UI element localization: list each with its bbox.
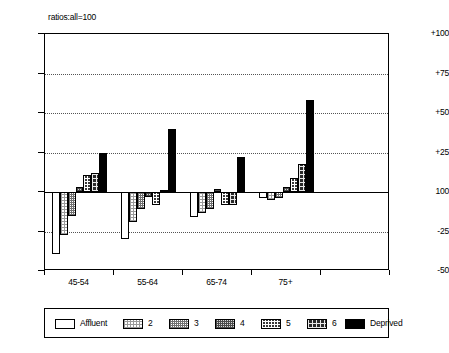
bar-4554-2 xyxy=(60,192,68,235)
legend-swatch-icon xyxy=(307,319,327,329)
x-tick-label-6574: 65-74 xyxy=(187,278,247,287)
bar-75-6 xyxy=(298,164,306,192)
bar-75-4 xyxy=(283,187,291,192)
deprivation-ratio-bar-chart: ratios:all=100 +100+75+50+25100-25-50 45… xyxy=(0,0,449,353)
bar-6574-4 xyxy=(214,189,222,192)
bar-4554-5 xyxy=(83,175,91,192)
bar-5564-3 xyxy=(137,192,145,209)
bar-5564-2 xyxy=(129,192,137,222)
legend-item-2[interactable]: 2 xyxy=(123,317,153,330)
baseline-zero-line xyxy=(45,192,388,193)
bar-4554-deprived xyxy=(99,153,107,193)
legend-label: 3 xyxy=(194,319,199,328)
bar-6574-2 xyxy=(198,192,206,213)
bar-6574-5 xyxy=(221,192,229,205)
legend-item-5[interactable]: 5 xyxy=(261,317,291,330)
bar-4554-3 xyxy=(68,192,76,216)
legend-item-deprived[interactable]: Deprived xyxy=(345,317,402,330)
x-tick-mark xyxy=(389,270,390,275)
bar-4554-6 xyxy=(91,173,99,192)
y-tick-label: +25 xyxy=(415,148,449,157)
chart-title: ratios:all=100 xyxy=(48,13,96,22)
x-tick-label-75: 75+ xyxy=(256,278,316,287)
bar-5564-4 xyxy=(145,192,153,197)
legend-swatch-icon xyxy=(345,319,365,329)
legend-item-affluent[interactable]: Affluent xyxy=(55,317,107,330)
x-tick-mark xyxy=(320,270,321,275)
x-tick-label-4554: 45-54 xyxy=(49,278,109,287)
legend-item-4[interactable]: 4 xyxy=(215,317,245,330)
legend-label: 4 xyxy=(240,319,245,328)
legend-swatch-icon xyxy=(55,319,75,329)
legend-swatch-icon xyxy=(169,319,189,329)
y-tick-label: +75 xyxy=(415,69,449,78)
x-tick-mark xyxy=(113,270,114,275)
legend-label: Deprived xyxy=(370,319,402,328)
bar-5564-5 xyxy=(152,192,160,205)
x-tick-mark xyxy=(44,270,45,275)
bar-4554-4 xyxy=(76,187,84,192)
bar-75-deprived xyxy=(306,100,314,192)
bar-75-2 xyxy=(267,192,275,200)
bar-75-affluent xyxy=(259,192,267,198)
x-tick-mark xyxy=(251,270,252,275)
bar-5564-affluent xyxy=(121,192,129,239)
bar-75-5 xyxy=(290,178,298,192)
gridline xyxy=(45,153,388,154)
legend-item-3[interactable]: 3 xyxy=(169,317,199,330)
bar-5564-6 xyxy=(160,190,168,192)
bar-75-3 xyxy=(275,192,283,198)
y-tick-label: 100 xyxy=(415,187,449,196)
bar-6574-deprived xyxy=(237,157,245,192)
legend-label: Affluent xyxy=(80,319,107,328)
gridline xyxy=(45,74,388,75)
legend-label: 5 xyxy=(286,319,291,328)
chart-legend: Affluent23456Deprived xyxy=(44,308,389,338)
y-tick-label: +100 xyxy=(415,29,449,38)
x-tick-mark xyxy=(182,270,183,275)
legend-item-6[interactable]: 6 xyxy=(307,317,337,330)
y-tick-label: -25 xyxy=(415,227,449,236)
legend-label: 6 xyxy=(332,319,337,328)
legend-swatch-icon xyxy=(123,319,143,329)
gridline xyxy=(45,232,388,233)
bar-6574-3 xyxy=(206,192,214,209)
x-tick-label-5564: 55-64 xyxy=(118,278,178,287)
gridline xyxy=(45,113,388,114)
bar-4554-affluent xyxy=(52,192,60,254)
bar-5564-deprived xyxy=(168,129,176,192)
legend-swatch-icon xyxy=(215,319,235,329)
y-tick-label: -50 xyxy=(415,266,449,275)
y-tick-label: +50 xyxy=(415,108,449,117)
plot-area xyxy=(44,33,389,270)
bar-6574-6 xyxy=(229,192,237,205)
legend-label: 2 xyxy=(148,319,153,328)
bar-6574-affluent xyxy=(190,192,198,217)
legend-swatch-icon xyxy=(261,319,281,329)
